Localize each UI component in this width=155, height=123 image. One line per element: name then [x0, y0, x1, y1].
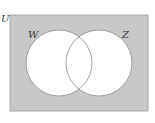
set-z-label: Z [121, 29, 130, 40]
set-w-label: W [28, 29, 39, 40]
universe-label: U [1, 13, 10, 24]
venn-diagram: U W Z [0, 0, 155, 123]
